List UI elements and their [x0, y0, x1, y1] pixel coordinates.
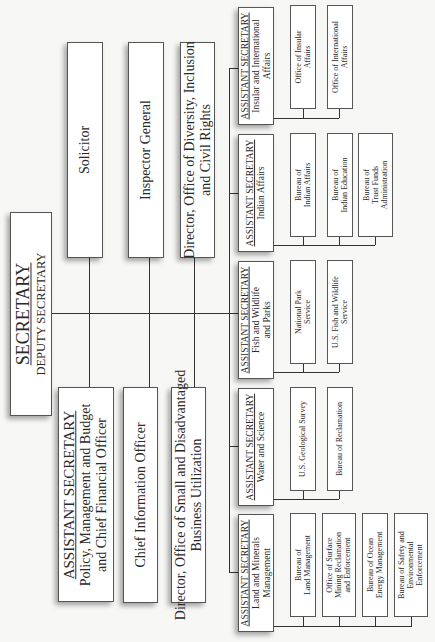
- as-indian-box: ASSISTANT SECRETARY Indian Affairs: [238, 134, 274, 252]
- bureau-line: Administration: [380, 161, 389, 209]
- drop-land-2: [339, 617, 340, 626]
- secretary-title: SECRETARY: [13, 252, 34, 375]
- tick-water: [229, 446, 238, 447]
- bureau-reclamation: Bureau of Reclamation: [327, 387, 353, 491]
- bureau-line: Bureau of: [294, 535, 303, 595]
- bureau-line: Enforcement: [416, 531, 425, 599]
- as-fish-box: ASSISTANT SECRETARY Fish and Wildlife an…: [238, 261, 274, 379]
- bus-land: [273, 626, 412, 627]
- drop-indian-3: [375, 236, 376, 245]
- bureau-national-park-service: National Park Service: [290, 260, 316, 364]
- bureau-line: Indian Education: [340, 158, 349, 213]
- bureau-line: Affairs: [340, 21, 349, 93]
- bureau-line: Bureau of: [362, 161, 371, 209]
- as-insular-title: ASSISTANT SECRETARY: [240, 13, 251, 120]
- bureau-indian-education: Bureau of Indian Education: [327, 133, 353, 237]
- bureau-indian-affairs: Bureau of Indian Affairs: [290, 133, 316, 237]
- bureau-line: Trust Funds: [371, 161, 380, 209]
- drop-water-2: [339, 490, 340, 499]
- cio-label: Chief Information Officer: [132, 422, 148, 567]
- inspector-general-label: Inspector General: [138, 100, 154, 200]
- bureau-line: Bureau of Ocean: [366, 532, 375, 599]
- bus-fish: [273, 372, 339, 373]
- as-insular-line-2: Affairs: [261, 13, 272, 120]
- as-water-box: ASSISTANT SECRETARY Water and Science: [238, 388, 274, 506]
- bureau-line: U.S. Geological Survey: [298, 401, 307, 477]
- drop-fish-2: [339, 363, 340, 372]
- bureau-line: Mining Reclamation: [334, 532, 343, 598]
- connector-pmb: [89, 313, 90, 387]
- bureau-line: Service: [340, 276, 349, 348]
- bureau-line: Office of Insular: [294, 30, 303, 83]
- drop-indian-1: [303, 236, 304, 245]
- tick-fish: [229, 313, 238, 314]
- as-insular-box: ASSISTANT SECRETARY Insular and Internat…: [238, 7, 274, 125]
- bureau-line: Office of International: [331, 21, 340, 93]
- bureau-safety-environmental: Bureau of Safety and Environmental Enfor…: [394, 513, 428, 617]
- bureau-line: Affairs: [303, 30, 312, 83]
- bureau-line: Land Management: [303, 535, 312, 595]
- solicitor-label: Solicitor: [77, 126, 93, 174]
- bureau-line: Bureau of: [294, 163, 303, 208]
- bureau-line: Bureau of Safety and: [397, 531, 406, 599]
- bus-indian: [273, 245, 375, 246]
- as-land-line-2: Management: [261, 520, 272, 627]
- bureau-surface-mining: Office of Surface Mining Reclamation and…: [322, 513, 356, 617]
- pmb-title: ASSISTANT SECRETARY: [61, 403, 78, 586]
- connector-diversity: [194, 258, 195, 314]
- solicitor-box: Solicitor: [67, 42, 103, 258]
- drop-insular-2: [339, 109, 340, 118]
- bureau-land-management: Bureau of Land Management: [290, 513, 316, 617]
- as-indian-title: ASSISTANT SECRETARY: [245, 140, 256, 247]
- connector-solicitor: [89, 258, 90, 314]
- bureau-line: U.S. Fish and Wildlife: [331, 276, 340, 348]
- tick-insular: [229, 68, 238, 69]
- bureau-line: Service: [303, 290, 312, 334]
- bureau-office-of-insular-affairs: Office of Insular Affairs: [290, 5, 316, 109]
- bureau-line: Office of Surface: [325, 532, 334, 598]
- bureau-line: and Enforcement: [344, 532, 353, 598]
- bureau-line: Bureau of: [331, 158, 340, 213]
- bureau-office-of-international-affairs: Office of International Affairs: [327, 5, 353, 109]
- diversity-line-1: Director, Office of Diversity, Inclusion: [181, 41, 197, 259]
- drop-land-3: [375, 617, 376, 626]
- as-fish-title: ASSISTANT SECRETARY: [240, 267, 251, 374]
- drop-fish-1: [303, 363, 304, 372]
- bureau-line: Bureau of Reclamation: [335, 402, 344, 476]
- as-fish-line-2: and Parks: [261, 267, 272, 374]
- tick-land: [229, 572, 238, 573]
- trunk-line: [52, 313, 230, 314]
- small-business-line-2: Business Utilization: [189, 370, 205, 620]
- deputy-secretary-label: DEPUTY SECRETARY: [34, 252, 48, 375]
- cio-box: Chief Information Officer: [123, 387, 158, 603]
- bus-water: [273, 499, 339, 500]
- bureau-fish-wildlife-service: U.S. Fish and Wildlife Service: [327, 260, 353, 364]
- diversity-line-2: and Civil Rights: [198, 41, 214, 259]
- bus-insular: [273, 118, 339, 119]
- inspector-general-box: Inspector General: [128, 42, 164, 258]
- drop-insular-1: [303, 109, 304, 118]
- diversity-director-box: Director, Office of Diversity, Inclusion…: [180, 42, 215, 258]
- bureau-geological-survey: U.S. Geological Survey: [290, 387, 316, 491]
- small-business-director-box: Director, Office of Small and Disadvanta…: [171, 387, 206, 603]
- as-water-title: ASSISTANT SECRETARY: [245, 394, 256, 501]
- connector-cio: [149, 313, 150, 387]
- backbone-line: [229, 68, 230, 573]
- as-land-box: ASSISTANT SECRETARY Land and Minerals Ma…: [238, 514, 274, 632]
- bureau-line: Indian Affairs: [303, 163, 312, 208]
- secretary-box: SECRETARY DEPUTY SECRETARY: [10, 212, 52, 416]
- small-business-line-1: Director, Office of Small and Disadvanta…: [172, 370, 188, 620]
- as-water-line-1: Water and Science: [256, 394, 267, 501]
- drop-land-4: [411, 617, 412, 626]
- pmb-line-1: Policy, Management and Budget: [79, 403, 95, 586]
- tick-indian: [229, 193, 238, 194]
- drop-land-1: [303, 617, 304, 626]
- bureau-line: Energy Management: [375, 532, 384, 599]
- as-fish-line-1: Fish and Wildlife: [251, 267, 262, 374]
- as-indian-line-1: Indian Affairs: [256, 140, 267, 247]
- bureau-line: National Park: [294, 290, 303, 334]
- connector-inspector-general: [149, 258, 150, 314]
- pmb-assistant-secretary-box: ASSISTANT SECRETARY Policy, Management a…: [58, 387, 114, 602]
- pmb-line-2: and Chief Financial Officer: [95, 403, 111, 586]
- drop-indian-2: [339, 236, 340, 245]
